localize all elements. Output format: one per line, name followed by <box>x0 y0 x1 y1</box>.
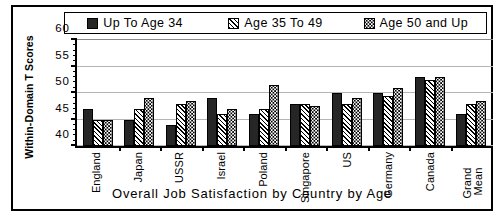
x-category-label: Japan <box>132 152 144 182</box>
bar <box>383 96 393 146</box>
bar <box>435 77 445 146</box>
y-tick-label: 40 <box>55 128 70 140</box>
y-axis-title: Within-Domain T Scores <box>22 37 36 157</box>
bar <box>269 85 279 146</box>
bar <box>217 114 227 146</box>
bar <box>476 101 486 146</box>
x-tick <box>409 146 411 151</box>
dots-swatch-icon <box>364 18 375 29</box>
x-category-label: Mean <box>457 168 499 179</box>
bar <box>393 88 403 146</box>
bar-group <box>202 40 244 146</box>
bar-group <box>119 40 161 146</box>
bar <box>415 77 425 146</box>
plot-wrapper: 4045505560 <box>53 40 493 148</box>
bar <box>290 104 300 146</box>
bar <box>134 109 144 146</box>
hatch-swatch-icon <box>228 18 239 29</box>
bar-group <box>409 40 451 146</box>
x-category-label: Poland <box>257 152 269 187</box>
bar-group <box>451 40 493 146</box>
bar <box>207 98 217 146</box>
bar <box>259 109 269 146</box>
bar <box>310 106 320 146</box>
solid-swatch-icon <box>87 18 98 29</box>
chart-legend: Up To Age 34 Age 35 To 49 Age 50 and Up <box>64 12 487 34</box>
bar <box>103 120 113 147</box>
bar-group <box>326 40 368 146</box>
legend-entry-up-to-age-34: Up To Age 34 <box>65 16 205 30</box>
legend-entry-age-50-and-up: Age 50 and Up <box>346 16 486 30</box>
y-tick-label: 55 <box>55 49 70 61</box>
x-tick <box>285 146 287 151</box>
bar <box>300 104 310 146</box>
x-tick <box>202 146 204 151</box>
x-axis-title: Overall Job Satisfaction by Country by A… <box>13 186 491 201</box>
y-tick-label: 50 <box>55 75 70 87</box>
bar-group <box>77 40 119 146</box>
x-tick <box>119 146 121 151</box>
x-category-label: US <box>341 152 353 167</box>
bar-group <box>285 40 327 146</box>
legend-label: Up To Age 34 <box>103 16 183 30</box>
bar-group <box>368 40 410 146</box>
bar <box>332 93 342 146</box>
x-category-label: Israel <box>215 152 227 180</box>
bar <box>249 114 259 146</box>
bar <box>186 101 196 146</box>
bar-group <box>160 40 202 146</box>
bar <box>342 104 352 146</box>
plot-area: 4045505560 <box>75 40 492 148</box>
legend-entry-age-35-to-49: Age 35 To 49 <box>205 16 345 30</box>
y-tick-label: 60 <box>55 22 70 34</box>
x-category-label: USSR <box>173 152 185 183</box>
bar-groups <box>77 40 492 146</box>
chart-figure: Up To Age 34 Age 35 To 49 Age 50 and Up … <box>11 5 493 211</box>
x-tick <box>160 146 162 151</box>
bar <box>83 109 93 146</box>
bar <box>124 120 134 147</box>
x-tick <box>326 146 328 151</box>
x-tick <box>243 146 245 151</box>
bar <box>144 98 154 146</box>
legend-label: Age 35 To 49 <box>244 16 322 30</box>
bar <box>176 104 186 146</box>
bar <box>456 114 466 146</box>
legend-label: Age 50 and Up <box>380 16 469 30</box>
bar <box>352 98 362 146</box>
bar <box>227 109 237 146</box>
y-tick-label: 45 <box>55 102 70 114</box>
x-tick <box>451 146 453 151</box>
bar <box>166 125 176 146</box>
x-tick <box>368 146 370 151</box>
y-axis-title-text: Within-Domain T Scores <box>23 35 35 158</box>
bar-group <box>243 40 285 146</box>
bar <box>93 120 103 147</box>
bar <box>373 93 383 146</box>
bar <box>425 80 435 146</box>
bar <box>466 104 476 146</box>
